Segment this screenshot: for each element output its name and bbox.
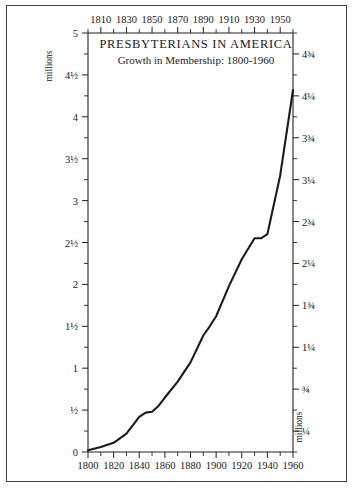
x-axis-tick-label-bottom: 1960 — [283, 460, 304, 471]
x-axis-tick-label-bottom: 1840 — [129, 460, 150, 471]
y-axis-tick-label-left: 4½ — [65, 70, 78, 81]
y-axis-tick-label-right: 4¼ — [302, 91, 315, 102]
y-axis-tick-label-left: 0 — [73, 447, 78, 458]
x-axis-tick-label-top: 1930 — [244, 14, 265, 25]
ticks-group — [82, 27, 299, 458]
y-axis-unit-label-right: millions — [294, 411, 304, 442]
y-axis-tick-label-left: 2 — [73, 279, 78, 290]
y-axis-tick-label-right: 3¾ — [302, 133, 315, 144]
y-axis-tick-label-right: ¾ — [302, 384, 310, 395]
y-axis-tick-label-right: 1¾ — [302, 300, 315, 311]
membership-line — [88, 90, 293, 450]
y-axis-tick-label-left: 2½ — [65, 238, 78, 249]
y-axis-tick-label-left: 3 — [73, 196, 78, 207]
y-axis-tick-label-left: 3½ — [65, 154, 78, 165]
x-axis-tick-label-bottom: 1820 — [103, 460, 124, 471]
x-axis-tick-label-top: 1950 — [270, 14, 291, 25]
x-axis-tick-label-top: 1830 — [116, 14, 137, 25]
y-axis-tick-label-right: 4¾ — [302, 49, 315, 60]
y-axis-tick-label-right: 3¼ — [302, 175, 315, 186]
x-axis-tick-label-top: 1910 — [218, 14, 239, 25]
y-axis-tick-label-right: 2¼ — [302, 258, 315, 269]
x-axis-tick-label-bottom: 1800 — [78, 460, 99, 471]
tick-labels-group: 1800182018401860188019001920194019601810… — [65, 14, 315, 471]
chart-subtitle: Growth in Membership: 1800-1960 — [118, 54, 275, 66]
y-axis-tick-label-right: 2¾ — [302, 217, 315, 228]
x-axis-tick-label-top: 1870 — [167, 14, 188, 25]
y-axis-unit-label-left: millions — [44, 50, 54, 81]
x-axis-tick-label-bottom: 1900 — [206, 460, 227, 471]
x-axis-tick-label-top: 1850 — [142, 14, 163, 25]
y-axis-tick-label-left: 5 — [73, 28, 78, 39]
y-axis-tick-label-right: 1¼ — [302, 342, 315, 353]
axes-group — [88, 33, 293, 452]
y-axis-tick-label-left: ½ — [70, 405, 78, 416]
x-axis-tick-label-bottom: 1940 — [257, 460, 278, 471]
y-axis-tick-label-left: 1 — [73, 363, 78, 374]
x-axis-tick-label-top: 1810 — [90, 14, 111, 25]
x-axis-tick-label-bottom: 1860 — [154, 460, 175, 471]
x-axis-tick-label-top: 1890 — [193, 14, 214, 25]
y-axis-tick-label-left: 1½ — [65, 321, 78, 332]
x-axis-tick-label-bottom: 1880 — [180, 460, 201, 471]
y-axis-tick-label-left: 4 — [73, 112, 79, 123]
presbyterians-line-chart: 1800182018401860188019001920194019601810… — [0, 0, 354, 489]
chart-figure: 1800182018401860188019001920194019601810… — [0, 0, 354, 489]
x-axis-tick-label-bottom: 1920 — [231, 460, 252, 471]
chart-title: PRESBYTERIANS IN AMERICA — [99, 37, 292, 51]
